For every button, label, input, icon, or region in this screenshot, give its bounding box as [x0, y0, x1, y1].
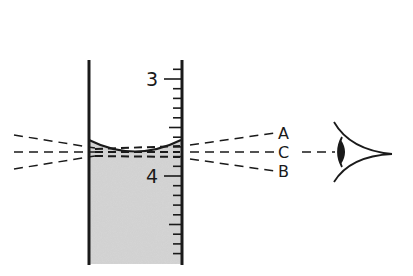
cylinder-diagram: 3 4 A C B [0, 0, 413, 276]
label-b: B [278, 162, 289, 181]
sight-line-a [190, 133, 275, 145]
sight-lines-left [14, 135, 95, 169]
eye-icon [334, 122, 392, 182]
sight-line-b [190, 159, 275, 171]
liquid [89, 141, 181, 264]
scale-label-4: 4 [146, 165, 158, 187]
label-a: A [278, 124, 289, 143]
scale-label-3: 3 [146, 68, 158, 90]
label-c: C [278, 143, 289, 162]
sight-lines-right [190, 133, 335, 171]
